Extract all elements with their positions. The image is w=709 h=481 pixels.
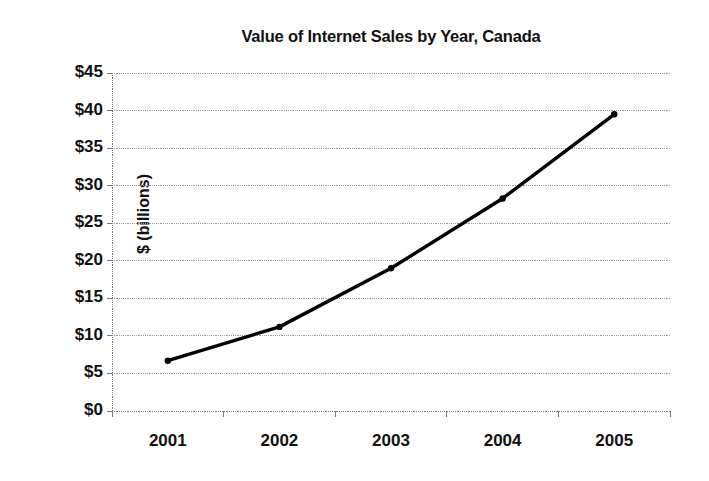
y-tick-label: $10 [75, 325, 103, 345]
data-point-marker [388, 265, 394, 271]
y-tick-label: $30 [75, 175, 103, 195]
chart-canvas [112, 73, 670, 411]
axis-lines [112, 73, 670, 411]
y-tick-label: $20 [75, 250, 103, 270]
data-point-marker [276, 324, 282, 330]
y-tick-label: $35 [75, 138, 103, 158]
data-series-line [168, 114, 614, 360]
y-tick-label: $25 [75, 213, 103, 233]
y-tick-label: $40 [75, 100, 103, 120]
x-tick-label: 2001 [149, 431, 187, 451]
y-tick-label: $0 [84, 400, 103, 420]
x-tick-label: 2004 [484, 431, 522, 451]
y-tick-label: $15 [75, 288, 103, 308]
axis-tick-marks [107, 73, 670, 417]
x-tick-label: 2005 [595, 431, 633, 451]
data-point-marker [611, 111, 617, 117]
chart-title: Value of Internet Sales by Year, Canada [112, 27, 670, 46]
gridlines [112, 73, 670, 411]
data-point-marker [499, 195, 505, 201]
data-point-markers [165, 111, 618, 364]
data-point-marker [165, 357, 171, 363]
x-tick-label: 2003 [372, 431, 410, 451]
series-line [168, 114, 614, 360]
x-tick-label: 2002 [260, 431, 298, 451]
chart-figure: Value of Internet Sales by Year, Canada … [0, 0, 709, 481]
plot-area: $ (billions) $0$5$10$15$20$25$30$35$40$4… [112, 73, 670, 411]
y-tick-label: $45 [75, 62, 103, 82]
y-tick-label: $5 [84, 363, 103, 383]
